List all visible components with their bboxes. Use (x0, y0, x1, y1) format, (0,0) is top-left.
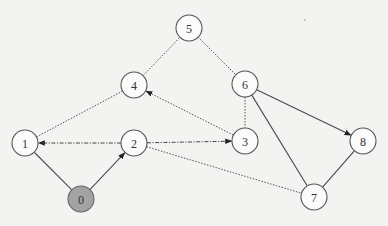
graph-diagram: 012345678 (0, 0, 388, 226)
edge-1-4 (37, 91, 123, 137)
edge-7-8 (323, 151, 355, 187)
node-label: 4 (131, 79, 137, 93)
node-label: 2 (131, 137, 137, 151)
nodes-layer: 012345678 (12, 15, 376, 212)
node-3: 3 (232, 128, 258, 154)
edge-0-2 (90, 153, 125, 190)
node-label: 5 (186, 22, 192, 36)
node-label: 6 (242, 78, 248, 92)
node-2: 2 (121, 130, 147, 156)
edge-2-3 (147, 141, 232, 143)
edge-6-8 (257, 90, 351, 135)
node-5: 5 (176, 15, 202, 41)
node-label: 1 (22, 137, 28, 151)
edge-5-6 (198, 37, 235, 74)
node-4: 4 (121, 72, 147, 98)
node-label: 7 (311, 191, 317, 205)
node-label: 0 (78, 193, 84, 207)
edge-2-7 (147, 147, 302, 193)
edge-4-5 (143, 38, 180, 76)
edge-0-1 (35, 153, 72, 190)
edges-layer (35, 37, 355, 193)
edge-3-4 (146, 91, 233, 135)
node-label: 3 (242, 135, 248, 149)
node-8: 8 (350, 128, 376, 154)
node-0: 0 (68, 186, 94, 212)
node-7: 7 (301, 184, 327, 210)
node-label: 8 (360, 135, 366, 149)
node-1: 1 (12, 130, 38, 156)
edge-6-7 (252, 95, 307, 185)
node-6: 6 (232, 71, 258, 97)
speck (304, 19, 306, 21)
